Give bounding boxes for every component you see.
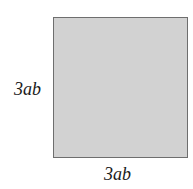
side-length-label-bottom: 3ab bbox=[104, 165, 131, 183]
side-length-label-left: 3ab bbox=[14, 80, 41, 98]
square-shape bbox=[53, 17, 188, 158]
